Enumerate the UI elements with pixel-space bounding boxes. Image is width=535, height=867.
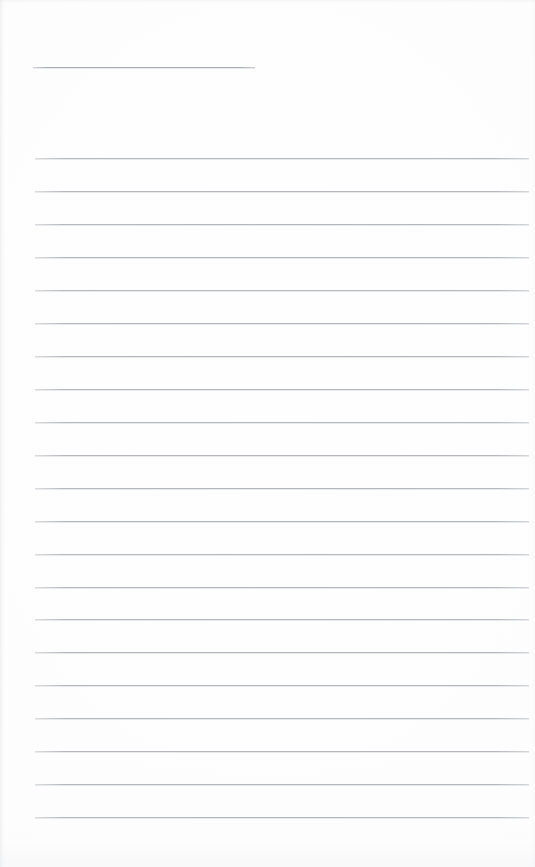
body-rule-20 <box>35 784 529 785</box>
body-rule-19 <box>35 751 529 752</box>
body-rule-6 <box>35 323 529 324</box>
body-rule-10 <box>35 455 529 456</box>
body-rule-21 <box>35 817 529 818</box>
body-rule-5 <box>35 290 529 291</box>
body-rule-14 <box>35 587 529 588</box>
body-rule-1 <box>35 158 529 159</box>
body-rule-12 <box>35 521 529 522</box>
body-rule-13 <box>35 554 529 555</box>
body-rule-2 <box>35 191 529 192</box>
body-rule-3 <box>35 224 529 225</box>
body-rule-18 <box>35 718 529 719</box>
scan-edge-left <box>0 0 7 867</box>
header-rule <box>33 67 255 68</box>
scan-edge-top <box>0 0 535 5</box>
body-rule-11 <box>35 488 529 489</box>
scanned-page <box>0 0 535 867</box>
body-rule-15 <box>35 619 529 620</box>
body-rule-4 <box>35 257 529 258</box>
scan-edge-bottom <box>0 821 535 867</box>
body-rule-17 <box>35 685 529 686</box>
body-rule-9 <box>35 422 529 423</box>
body-rule-16 <box>35 652 529 653</box>
body-rule-7 <box>35 356 529 357</box>
scan-edge-right <box>529 0 535 867</box>
body-rule-8 <box>35 389 529 390</box>
